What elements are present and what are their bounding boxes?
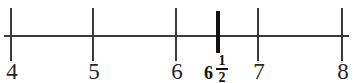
marked-point-whole-number: 6: [204, 64, 216, 82]
tick-label-4: 4: [6, 60, 18, 83]
tick-mark-8: [341, 8, 343, 61]
marked-point-fraction: 1 2: [216, 54, 228, 83]
tick-mark-marked-point: [216, 11, 220, 53]
tick-label-8: 8: [337, 60, 349, 83]
tick-mark-4: [10, 8, 12, 61]
tick-mark-6: [175, 8, 177, 61]
fraction-denominator: 2: [218, 70, 227, 83]
tick-mark-7: [257, 8, 259, 61]
tick-label-7: 7: [253, 60, 265, 83]
number-line-figure: 4 5 6 7 8 6 1 2: [0, 0, 353, 83]
tick-mark-5: [92, 8, 94, 61]
tick-label-6: 6: [171, 60, 183, 83]
fraction-numerator: 1: [218, 54, 227, 68]
marked-point-label: 6 1 2: [204, 54, 228, 83]
tick-label-5: 5: [88, 60, 100, 83]
